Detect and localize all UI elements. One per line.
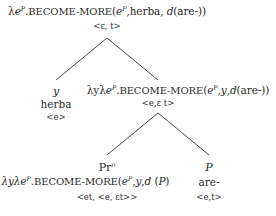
root-type: <ε, t> [93, 22, 120, 31]
left-leaf-label: y [53, 86, 59, 97]
lambda-prefix: λP λyλ [0, 175, 20, 187]
p-type: <e,t> [196, 193, 221, 202]
d-function: d [230, 84, 237, 96]
d-function: d [145, 175, 152, 187]
edge-root-right [107, 38, 158, 80]
root-formula: λeP.BECOME-MORE(eP,herba, d(are-)) [8, 6, 206, 17]
pr-formula: λP λyλeP.BECOME-MORE(eP,y,d (P) [0, 176, 169, 187]
paren: ( [151, 175, 158, 187]
edge-mid-right [158, 113, 209, 155]
sup-o: o [111, 161, 115, 169]
predicate: BECOME-MORE [119, 85, 203, 96]
pr-type: <et, <e, εt>> [77, 193, 138, 202]
predicate: BECOME-MORE [34, 176, 118, 187]
mid-formula: λyλeP.BECOME-MORE(eP,y,d(are-)) [87, 85, 269, 96]
pr-text: Pr [99, 161, 112, 174]
pr-label: Pro [99, 162, 116, 173]
d-arg: (are-)) [237, 84, 270, 96]
d-arg: (are-)) [173, 5, 206, 17]
p-label: P [205, 162, 212, 173]
lambda-prefix: λyλ [87, 84, 106, 96]
edge-mid-left [107, 113, 158, 155]
left-leaf-type: <e> [46, 113, 65, 122]
predicate: BECOME-MORE [28, 6, 112, 17]
edge-root-left [56, 38, 107, 80]
mid-type: <e,ε t> [142, 99, 175, 108]
paren: ) [165, 175, 169, 187]
d-arg-p: P [158, 175, 165, 187]
arg-herba: ,herba, [126, 5, 166, 17]
left-leaf-word: herba [41, 99, 72, 110]
p-word: are- [198, 177, 219, 188]
